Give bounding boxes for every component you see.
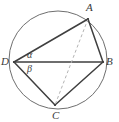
vertex-point-d — [13, 61, 15, 63]
vertex-label-b: B — [106, 56, 113, 67]
vertex-label-a: A — [86, 2, 93, 13]
vertex-label-d: D — [1, 56, 9, 67]
geometry-figure: A B C D α β — [0, 0, 119, 122]
angle-label-beta: β — [27, 64, 32, 74]
vertex-label-c: C — [52, 110, 59, 121]
circumcircle — [9, 11, 107, 109]
vertex-point-b — [102, 61, 104, 63]
vertex-point-a — [87, 18, 89, 20]
vertex-point-c — [54, 104, 56, 106]
chord-d-to-a — [14, 19, 88, 62]
angle-label-alpha: α — [27, 50, 32, 60]
diagram-canvas — [0, 0, 119, 122]
chord-a-to-b — [88, 19, 103, 62]
chord-d-to-c — [14, 62, 55, 105]
chord-c-to-b — [55, 62, 103, 105]
